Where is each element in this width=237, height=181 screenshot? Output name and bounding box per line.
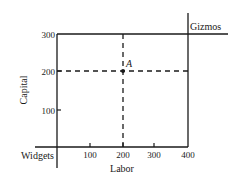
widgets-origin-label: Widgets <box>21 150 54 161</box>
x-tick-label-400: 400 <box>181 150 195 160</box>
point-a-marker <box>121 69 125 73</box>
x-tick-label-300: 300 <box>147 150 161 160</box>
edgeworth-box-diagram: A 300 200 100 100 200 300 400 Labor Capi… <box>0 0 237 181</box>
x-tick-label-200: 200 <box>116 150 130 160</box>
point-a-label: A <box>125 58 133 69</box>
y-axis-title: Capital <box>18 75 29 104</box>
y-tick-label-200: 200 <box>42 67 56 77</box>
y-tick-label-300: 300 <box>42 30 56 40</box>
x-tick-label-100: 100 <box>83 150 97 160</box>
y-tick-label-100: 100 <box>42 106 56 116</box>
gizmos-origin-label: Gizmos <box>190 21 221 32</box>
x-axis-title: Labor <box>110 163 135 174</box>
